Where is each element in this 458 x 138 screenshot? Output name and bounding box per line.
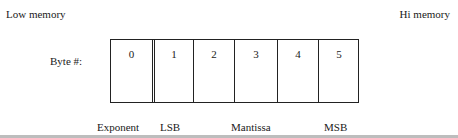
byte-number-label: Byte #: <box>50 55 82 67</box>
byte-index: 5 <box>319 48 359 60</box>
caption-lsb: LSB <box>160 121 180 133</box>
byte-index: 2 <box>194 48 234 60</box>
byte-cell-5: 5 <box>318 40 359 102</box>
caption-mantissa: Mantissa <box>231 121 271 133</box>
byte-index: 0 <box>111 48 152 60</box>
byte-layout-box: 0 1 2 3 4 5 <box>110 39 359 103</box>
byte-cell-2: 2 <box>193 40 234 102</box>
caption-msb: MSB <box>324 121 347 133</box>
caption-exponent: Exponent <box>97 121 139 133</box>
byte-index: 4 <box>278 48 318 60</box>
byte-cell-4: 4 <box>277 40 318 102</box>
hi-memory-label: Hi memory <box>400 8 450 20</box>
low-memory-label: Low memory <box>6 8 66 20</box>
byte-cell-1: 1 <box>152 40 193 102</box>
byte-index: 1 <box>155 48 193 60</box>
byte-index: 3 <box>235 48 277 60</box>
bottom-divider <box>0 135 458 138</box>
byte-cell-3: 3 <box>234 40 277 102</box>
byte-cell-0: 0 <box>111 40 152 102</box>
